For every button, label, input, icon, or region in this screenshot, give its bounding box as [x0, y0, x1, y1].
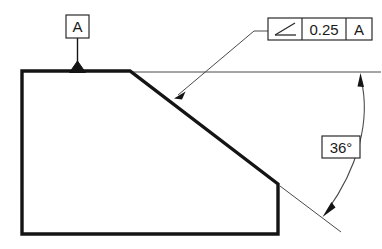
- angularity-datum-reference: A: [354, 21, 364, 38]
- technical-drawing: A 0.25 A 36°: [0, 0, 382, 249]
- angular-dimension-arrow-top-icon: [358, 73, 365, 87]
- datum-symbol-label: A: [72, 18, 82, 35]
- part-outline: [22, 71, 278, 234]
- drawing-canvas: A 0.25 A 36°: [0, 0, 382, 249]
- angular-dimension-arrow-bottom-icon: [323, 202, 336, 217]
- angular-dimension-value: 36°: [330, 139, 353, 156]
- fcf-leader-diagonal: [178, 31, 254, 95]
- datum-triangle-icon: [70, 61, 86, 73]
- fcf-leader-arrowhead-icon: [174, 92, 186, 100]
- angularity-tolerance-value: 0.25: [309, 21, 338, 38]
